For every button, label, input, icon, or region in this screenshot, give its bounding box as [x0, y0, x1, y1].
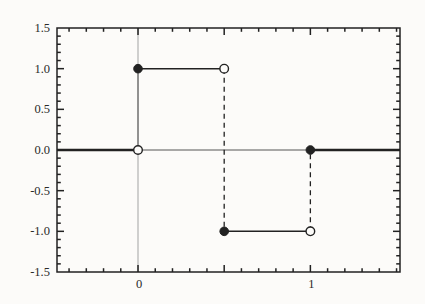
filled-point-marker	[306, 146, 315, 155]
y-tick-label-1.0: 1.0	[34, 62, 50, 76]
y-tick-label-1.5: 1.5	[34, 21, 50, 35]
y-tick-label-0.0: 0.0	[34, 143, 50, 157]
open-point-marker	[220, 64, 229, 73]
y-tick-label--1.0: -1.0	[30, 224, 50, 238]
open-point-marker	[306, 227, 315, 236]
x-tick-label-1: 1	[308, 277, 314, 291]
x-tick-label-0: 0	[136, 277, 142, 291]
y-tick-label-0.5: 0.5	[34, 102, 50, 116]
open-point-marker	[134, 146, 143, 155]
haar-wavelet-figure: 1.51.00.50.0-0.5-1.0-1.501	[0, 0, 425, 304]
y-tick-label--0.5: -0.5	[30, 184, 50, 198]
step-function-plot: 1.51.00.50.0-0.5-1.0-1.501	[0, 0, 425, 304]
y-tick-label--1.5: -1.5	[30, 265, 50, 279]
filled-point-marker	[220, 227, 229, 236]
filled-point-marker	[134, 64, 143, 73]
